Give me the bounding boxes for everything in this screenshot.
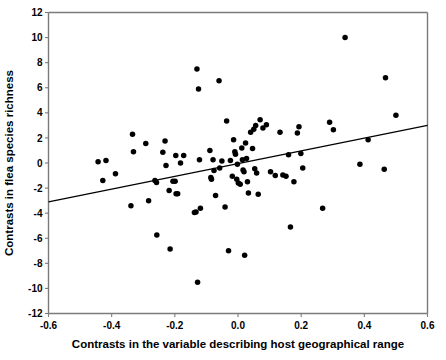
data-point <box>320 205 326 211</box>
data-point <box>393 113 399 119</box>
data-point <box>264 122 270 128</box>
data-point <box>178 160 184 166</box>
data-point <box>130 131 136 137</box>
data-point <box>243 140 249 146</box>
y-axis-tick-label: 6 <box>37 82 43 93</box>
data-point <box>195 279 201 285</box>
data-point <box>254 170 260 176</box>
data-point <box>160 150 166 156</box>
x-axis-tick-label: 0.6 <box>421 320 435 331</box>
data-point <box>167 246 173 252</box>
plot-canvas: -12-10-8-6-4-2024681012-0.6-0.4-0.20.00.… <box>0 0 446 360</box>
data-point <box>241 169 247 175</box>
data-point <box>246 190 252 196</box>
data-point <box>277 130 283 136</box>
data-point <box>210 157 216 163</box>
data-point <box>235 162 241 168</box>
data-point <box>296 124 302 130</box>
x-axis-tick-label: -0.6 <box>40 320 58 331</box>
data-point <box>253 123 259 129</box>
data-point <box>194 66 200 72</box>
data-point <box>231 137 237 143</box>
data-point <box>244 156 250 162</box>
y-axis-tick-label: -12 <box>28 308 43 319</box>
data-point <box>146 198 152 204</box>
data-point <box>207 148 213 154</box>
data-point <box>239 145 245 151</box>
data-point <box>331 127 337 133</box>
data-point <box>242 252 248 258</box>
x-axis-tick-label: 0.2 <box>294 320 308 331</box>
data-point <box>131 149 137 155</box>
data-point <box>196 86 202 92</box>
data-point <box>175 191 181 197</box>
y-axis-tick-label: -10 <box>28 283 43 294</box>
data-point <box>300 165 306 171</box>
y-axis-tick-label: 4 <box>37 107 43 118</box>
y-axis-tick-label: 10 <box>31 32 43 43</box>
data-point <box>103 158 109 164</box>
data-point <box>357 162 363 168</box>
data-point <box>226 248 232 254</box>
data-point <box>95 159 101 165</box>
data-point <box>257 117 263 123</box>
x-axis-tick-label: -0.2 <box>166 320 184 331</box>
data-point <box>342 35 348 41</box>
data-point <box>172 178 178 184</box>
y-axis-tick-label: -8 <box>34 258 43 269</box>
data-point <box>327 119 333 125</box>
data-point <box>198 205 204 211</box>
data-point <box>197 157 203 163</box>
data-point <box>255 192 261 198</box>
y-axis-tick-label: 0 <box>37 158 43 169</box>
data-point <box>211 168 217 174</box>
data-point <box>224 118 230 124</box>
data-point <box>143 141 149 147</box>
y-axis-tick-label: -4 <box>34 208 43 219</box>
data-point <box>365 137 371 143</box>
data-point <box>273 173 279 179</box>
data-point <box>162 138 168 144</box>
data-point <box>268 169 274 175</box>
y-axis-tick-label: 8 <box>37 57 43 68</box>
scatter-plot-figure: -12-10-8-6-4-2024681012-0.6-0.4-0.20.00.… <box>0 0 446 360</box>
data-point <box>237 182 243 188</box>
data-point <box>209 177 215 183</box>
data-point <box>181 153 187 159</box>
data-point <box>233 151 239 157</box>
data-point <box>173 153 179 159</box>
x-axis-tick-label: 0.0 <box>231 320 245 331</box>
data-point <box>219 158 225 164</box>
data-point <box>286 152 292 158</box>
data-point <box>193 209 199 215</box>
data-point <box>154 232 160 238</box>
data-point <box>222 204 228 210</box>
data-point <box>113 171 119 177</box>
x-axis-tick-label: -0.4 <box>103 320 121 331</box>
data-point <box>245 179 251 185</box>
data-point <box>213 193 219 199</box>
data-point <box>250 146 256 152</box>
data-point <box>381 167 387 173</box>
data-point <box>295 130 301 136</box>
x-axis-tick-label: 0.4 <box>357 320 371 331</box>
data-point <box>283 173 289 179</box>
data-point <box>217 165 223 171</box>
y-axis-title: Contrasts in flea species richness <box>3 70 15 256</box>
data-point <box>128 203 134 209</box>
x-axis-title: Contrasts in the variable describing hos… <box>72 338 404 350</box>
data-point <box>100 178 106 184</box>
data-point <box>228 158 234 164</box>
data-point <box>154 180 160 186</box>
y-axis-tick-label: 12 <box>31 7 43 18</box>
y-axis-tick-label: 2 <box>37 133 43 144</box>
data-point <box>383 75 389 81</box>
y-axis-tick-label: -6 <box>34 233 43 244</box>
data-point <box>163 163 169 169</box>
y-axis-tick-label: -2 <box>34 183 43 194</box>
data-point <box>288 224 294 230</box>
data-point <box>166 188 172 194</box>
data-point <box>216 78 222 84</box>
data-point <box>298 151 304 157</box>
data-point <box>291 179 297 185</box>
